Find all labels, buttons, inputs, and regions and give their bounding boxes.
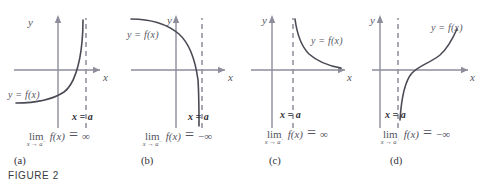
curve-path bbox=[400, 29, 457, 120]
limit-operator: lim x → a− bbox=[145, 131, 160, 142]
x-axis-label: x bbox=[228, 72, 233, 83]
limit-expression: lim x → a− f(x) = −∞ bbox=[145, 127, 212, 143]
y-axis bbox=[377, 15, 383, 128]
limit-subscript: x → a− bbox=[143, 141, 162, 148]
y-axis-label: y bbox=[370, 15, 375, 26]
figure-number-label: FIGURE 2 bbox=[8, 170, 59, 181]
limit-operator: lim x → a+ bbox=[267, 129, 282, 140]
x-axis bbox=[131, 67, 225, 73]
y-axis-label: y bbox=[262, 15, 267, 26]
limit-equals: = bbox=[69, 126, 78, 143]
panel-a: y x y = f(x) x = a lim x → a− f(x) = ∞ (… bbox=[0, 0, 122, 170]
y-axis-label: y bbox=[28, 17, 33, 28]
x-axis bbox=[251, 67, 345, 73]
panel-caption: (a) bbox=[14, 155, 26, 166]
y-axis bbox=[269, 15, 275, 128]
panel-caption: (c) bbox=[269, 155, 281, 166]
panel-caption: (d) bbox=[390, 155, 402, 166]
limit-expression: lim x → a+ f(x) = −∞ bbox=[383, 125, 450, 141]
limit-subscript: x → a+ bbox=[265, 139, 284, 146]
limit-function: f(x) bbox=[288, 129, 303, 140]
limit-expression: lim x → a+ f(x) = ∞ bbox=[267, 125, 328, 141]
curve-label: y = f(x) bbox=[311, 36, 343, 46]
limit-function: f(x) bbox=[404, 129, 419, 140]
limit-subscript: x → a− bbox=[27, 141, 46, 148]
limit-equals: = bbox=[423, 124, 432, 141]
x-axis-label: x bbox=[103, 72, 108, 83]
limit-operator: lim x → a− bbox=[29, 131, 44, 142]
panel-b: y x y = f(x) x = a lim x → a− f(x) = −∞ … bbox=[121, 0, 243, 170]
limit-value: ∞ bbox=[320, 128, 328, 140]
curve-label: y = f(x) bbox=[8, 90, 40, 100]
limit-subscript: x → a+ bbox=[381, 139, 400, 146]
limit-value: −∞ bbox=[198, 130, 212, 142]
x-axis-label: x bbox=[470, 72, 475, 83]
asymptote-label: x = a bbox=[72, 112, 93, 122]
y-axis-label: y bbox=[167, 15, 172, 26]
limit-value: ∞ bbox=[82, 130, 90, 142]
panel-d: y x y = f(x) x = a lim x → a+ f(x) = −∞ … bbox=[364, 0, 486, 170]
limit-equals: = bbox=[185, 126, 194, 143]
limit-expression: lim x → a− f(x) = ∞ bbox=[29, 127, 90, 143]
panel-caption: (b) bbox=[141, 155, 153, 166]
limit-operator: lim x → a+ bbox=[383, 129, 398, 140]
curve-label: y = f(x) bbox=[127, 30, 159, 40]
x-axis bbox=[14, 67, 100, 73]
limit-equals: = bbox=[307, 124, 316, 141]
asymptote-label: x = a bbox=[188, 112, 209, 122]
asymptote-label: x = a bbox=[280, 110, 301, 120]
curve-label: y = f(x) bbox=[431, 23, 463, 33]
figure-2-graphic: y x y = f(x) x = a lim x → a− f(x) = ∞ (… bbox=[0, 0, 486, 186]
y-axis bbox=[55, 15, 61, 128]
asymptote-label: x = a bbox=[385, 110, 406, 120]
limit-function: f(x) bbox=[166, 131, 181, 142]
panel-a-plot bbox=[0, 0, 122, 170]
limit-function: f(x) bbox=[50, 131, 65, 142]
panel-c: y x y = f(x) x = a lim x → a+ f(x) = ∞ (… bbox=[243, 0, 365, 170]
panel-b-plot bbox=[121, 0, 243, 170]
x-axis-label: x bbox=[347, 72, 352, 83]
limit-value: −∞ bbox=[436, 128, 450, 140]
